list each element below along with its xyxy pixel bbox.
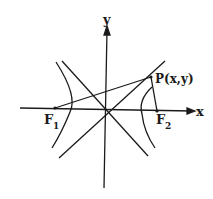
- y-axis-label: y: [102, 12, 111, 27]
- hyperbola: [52, 62, 155, 148]
- hyperbola-diagram: y x P(x,y) F 1 F 2: [0, 0, 213, 199]
- point-p-label: P(x,y): [155, 72, 194, 86]
- focus-f1-subscript: 1: [53, 121, 59, 131]
- hyperbola-right-branch: [141, 87, 155, 148]
- point-p: [149, 75, 152, 78]
- hyperbola-left-branch: [52, 62, 72, 148]
- focus-f1-point: [53, 106, 56, 109]
- segment-f1-p: [55, 77, 151, 108]
- x-axis-label: x: [196, 104, 204, 119]
- focus-f2-subscript: 2: [165, 121, 171, 131]
- y-axis: [104, 26, 110, 188]
